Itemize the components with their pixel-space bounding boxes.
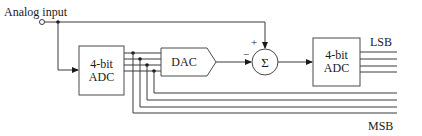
input-terminal-icon	[40, 20, 45, 25]
adc1-block: 4-bit ADC	[79, 46, 124, 95]
lsb-outputs	[360, 52, 397, 72]
analog-input-label: Analog input	[4, 5, 68, 19]
adc2-label-line1: 4-bit	[325, 48, 348, 62]
adc2-label-line2: ADC	[324, 61, 349, 75]
adc1-label-line2: ADC	[89, 70, 114, 84]
dac-block: DAC	[161, 48, 216, 76]
lsb-label: LSB	[370, 35, 392, 49]
subranging-adc-diagram: Analog input 4-bit ADC DAC Σ	[0, 0, 422, 136]
msb-label: MSB	[368, 119, 393, 133]
sigma-symbol: Σ	[261, 55, 269, 70]
adc1-label-line1: 4-bit	[90, 57, 113, 71]
adc2-block: 4-bit ADC	[313, 38, 360, 86]
plus-sign: +	[251, 36, 257, 48]
dac-label: DAC	[171, 55, 196, 69]
summing-junction: Σ + −	[243, 36, 278, 75]
minus-sign: −	[243, 48, 249, 60]
